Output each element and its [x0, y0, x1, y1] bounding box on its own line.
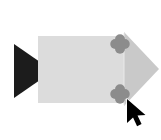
- shape-canvas[interactable]: Block Arrow Shape Selection Canvas showi…: [0, 0, 161, 140]
- cursor-body: [127, 99, 145, 126]
- cursor-layer: [0, 0, 161, 140]
- mouse-cursor-icon: [127, 99, 145, 126]
